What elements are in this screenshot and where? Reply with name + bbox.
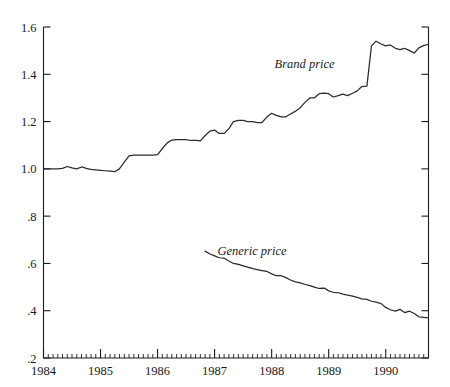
chart-container: 1.61.41.21.0.8.6.4.2 1984198519861987198… (0, 0, 450, 387)
y-tick-label: 1.2 (21, 115, 37, 129)
series-annotations: Brand priceGeneric price (217, 57, 335, 258)
x-tick-label: 1985 (88, 364, 113, 378)
x-tick-label: 1986 (145, 364, 170, 378)
y-tick-label: 1.4 (21, 68, 37, 82)
line-chart: 1.61.41.21.0.8.6.4.2 1984198519861987198… (0, 0, 450, 387)
x-tick-label: 1987 (202, 364, 227, 378)
x-axis-major-ticks (44, 349, 386, 358)
x-tick-label: 1990 (373, 364, 398, 378)
y-axis-tick-labels: 1.61.41.21.0.8.6.4.2 (21, 21, 37, 366)
y-axis-ticks (44, 27, 429, 358)
x-tick-label: 1984 (31, 364, 57, 378)
y-tick-label: .6 (27, 257, 36, 271)
series-line-generic-price (205, 251, 429, 318)
axis-lines (44, 27, 429, 358)
y-tick-label: .4 (27, 304, 37, 318)
data-series-group (44, 41, 429, 318)
x-tick-label: 1988 (259, 364, 284, 378)
series-annotation: Generic price (217, 244, 287, 258)
x-tick-label: 1989 (316, 364, 341, 378)
y-tick-label: 1.0 (21, 162, 37, 176)
x-axis-minor-ticks (48, 354, 428, 358)
series-annotation: Brand price (275, 57, 336, 71)
y-tick-label: .8 (27, 210, 36, 224)
y-tick-label: 1.6 (21, 21, 37, 35)
series-line-brand-price (44, 41, 429, 172)
x-axis-tick-labels: 1984198519861987198819891990 (31, 364, 398, 378)
